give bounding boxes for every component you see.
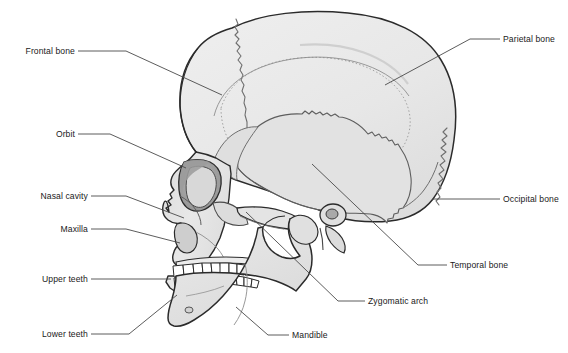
leader-lower-teeth bbox=[91, 295, 177, 334]
label-mandible: Mandible bbox=[292, 330, 328, 340]
leader-mandible bbox=[236, 307, 289, 335]
auditory-canal-inner bbox=[326, 209, 338, 219]
label-zygomatic-arch: Zygomatic arch bbox=[368, 296, 428, 306]
label-parietal-bone: Parietal bone bbox=[503, 34, 555, 44]
label-frontal-bone: Frontal bone bbox=[0, 46, 75, 56]
label-nasal-cavity: Nasal cavity bbox=[0, 191, 88, 201]
styloid-process bbox=[320, 228, 323, 250]
mental-foramen bbox=[185, 307, 193, 313]
label-occipital-bone: Occipital bone bbox=[503, 194, 559, 204]
figure-canvas: Frontal bone Orbit Nasal cavity Maxilla … bbox=[0, 0, 568, 353]
ear-region-group bbox=[320, 204, 346, 253]
mastoid-process bbox=[326, 226, 345, 253]
label-temporal-bone: Temporal bone bbox=[450, 260, 508, 270]
leader-maxilla bbox=[91, 229, 180, 243]
leader-orbit bbox=[78, 134, 186, 168]
label-upper-teeth: Upper teeth bbox=[0, 274, 88, 284]
label-orbit: Orbit bbox=[0, 129, 75, 139]
label-maxilla: Maxilla bbox=[0, 224, 88, 234]
label-lower-teeth: Lower teeth bbox=[0, 329, 88, 339]
skull-lateral-illustration bbox=[0, 0, 568, 353]
